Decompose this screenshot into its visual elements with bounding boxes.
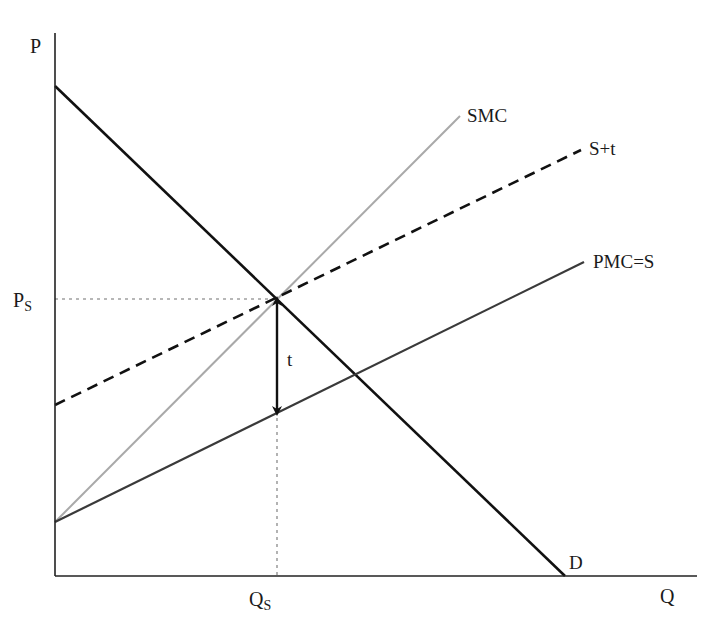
supply_tax-curve [55,150,581,405]
tax-label: t [287,349,293,370]
equilibrium-price-label: PS [13,289,32,314]
supply_tax-label: S+t [589,138,616,159]
equilibrium-quantity-label: QS [249,588,271,613]
demand-label: D [569,552,583,573]
smc-curve [55,116,460,522]
demand-curve [55,86,565,576]
curve-labels-group: DSMCS+tPMC=S [467,105,654,573]
curves-group [55,86,584,576]
quantity-axis-label: Q [660,585,675,607]
pmc-curve [55,262,584,522]
price-axis-label: P [30,35,41,57]
pmc-label: PMC=S [593,251,654,272]
smc-label: SMC [467,105,507,126]
externality-tax-diagram: P Q PS QS t DSMCS+tPMC=S [0,0,725,633]
